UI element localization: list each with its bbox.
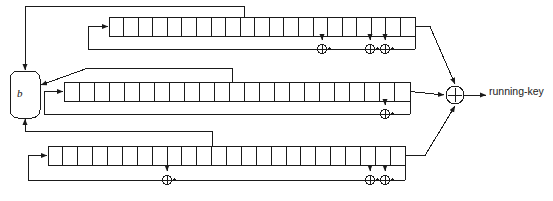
output-line-bottom (405, 106, 455, 156)
lfsr-top-junction-2 (391, 47, 394, 50)
lfsr-bottom-feedback-elbow (28, 156, 34, 181)
output-line-middle (410, 92, 444, 96)
lfsr-bottom-junction-2 (391, 178, 394, 181)
clock-tap-top (25, 6, 244, 70)
running-key-label: running-key (489, 85, 544, 97)
lfsr-top-body (109, 17, 415, 36)
lfsr-top-feedback-elbow (88, 27, 94, 50)
lfsr-top-junction-0 (328, 47, 331, 50)
output-line-top (415, 27, 455, 85)
clock-control-unit (10, 71, 40, 118)
lfsr-bottom-junction-0 (173, 178, 176, 181)
lfsr-bottom-junction-1 (376, 178, 379, 181)
diagram-canvas: b running-key (0, 0, 553, 201)
lfsr-middle-feedback-elbow (44, 92, 50, 115)
diagram-vector-layer (0, 0, 553, 201)
clock-tap-bottom (25, 119, 212, 146)
lfsr-top-junction-1 (376, 47, 379, 50)
lfsr-middle-junction-0 (391, 112, 394, 115)
lfsr-middle-body (64, 82, 410, 101)
control-unit-label: b (17, 87, 23, 99)
